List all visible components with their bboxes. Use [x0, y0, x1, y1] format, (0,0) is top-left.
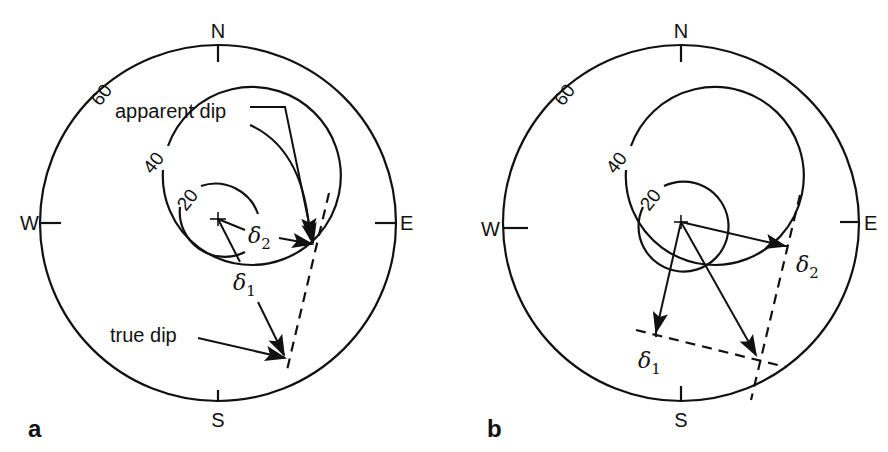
delta2-symbol: δ2 [248, 223, 271, 253]
delta1-symbol: δ1 [638, 348, 661, 378]
ring-60-label: 60 [87, 80, 117, 110]
true-dip-arrow [681, 222, 756, 355]
ring-20-label: 20 [636, 185, 666, 215]
delta2-arrow [681, 222, 785, 246]
ring-20-arc-top [201, 184, 258, 214]
dip-diagram-figure: N S W E 60 40 20 apparent dip true dip δ… [0, 0, 888, 452]
delta1-arrow [258, 302, 284, 355]
delta1-arrow [656, 222, 681, 332]
delta2-arrow [279, 238, 312, 244]
east-label: E [864, 212, 877, 234]
panel-a-labels: N S W E 60 40 20 apparent dip true dip δ… [20, 20, 413, 442]
north-label: N [674, 20, 688, 42]
ring-20-label: 20 [173, 185, 203, 215]
west-label: W [20, 212, 39, 234]
true-dip-label: true dip [110, 324, 177, 346]
ring-40-circle [626, 87, 804, 265]
south-label: S [211, 409, 224, 431]
east-label: E [400, 212, 413, 234]
ring-60-label: 60 [550, 80, 580, 110]
strike-dashed-line-1 [751, 195, 800, 400]
apparent-dip-label: apparent dip [115, 100, 226, 122]
south-label: S [674, 409, 687, 431]
delta1-symbol: δ1 [233, 270, 256, 300]
panel-label-a: a [28, 415, 42, 442]
delta2-symbol: δ2 [796, 252, 819, 282]
panel-label-b: b [487, 415, 502, 442]
west-label: W [481, 218, 500, 240]
ring-20-arc-bottom [180, 207, 245, 257]
true-dip-leader-arrow [198, 338, 285, 358]
north-label: N [211, 20, 225, 42]
